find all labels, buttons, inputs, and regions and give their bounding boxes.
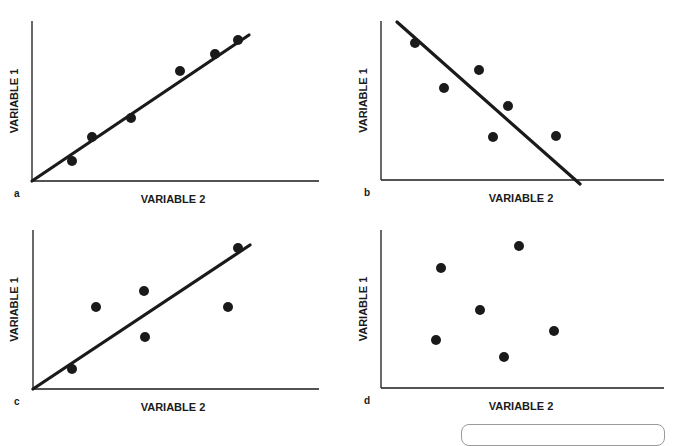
data-point [210,49,220,59]
trend-line [33,245,250,389]
data-point [436,263,446,273]
data-point [233,243,243,253]
x-axis-label: VARIABLE 2 [489,192,554,204]
data-point [139,286,149,296]
x-axis-label: VARIABLE 2 [141,193,206,205]
trend-line [397,22,580,184]
data-point [126,113,136,123]
x-axis-label: VARIABLE 2 [489,400,554,412]
panel-b: VARIABLE 1VARIABLE 2b [357,21,664,204]
data-point [551,131,561,141]
data-point [67,364,77,374]
data-point [475,305,485,315]
data-point [67,156,77,166]
data-point [91,302,101,312]
data-point [140,332,150,342]
panel-label: d [364,395,370,406]
data-point [223,302,233,312]
panel-a: VARIABLE 1VARIABLE 2a [8,21,319,205]
data-point [439,83,449,93]
y-axis-label: VARIABLE 1 [8,69,20,134]
panel-label: b [364,187,370,198]
panel-label: c [14,396,20,407]
data-point [499,352,509,362]
data-point [175,66,185,76]
data-point [87,132,97,142]
panel-c: VARIABLE 1VARIABLE 2c [8,230,319,413]
y-axis-label: VARIABLE 1 [357,277,369,342]
data-point [549,326,559,336]
x-axis-label: VARIABLE 2 [141,401,206,413]
caption-box [461,424,665,446]
data-point [233,35,243,45]
panel-label: a [14,188,20,199]
data-point [431,335,441,345]
data-point [474,65,484,75]
y-axis-label: VARIABLE 1 [8,277,20,342]
panel-d: VARIABLE 1VARIABLE 2d [357,230,664,412]
data-point [514,241,524,251]
y-axis-label: VARIABLE 1 [357,68,369,133]
data-point [488,132,498,142]
data-point [410,38,420,48]
data-point [503,101,513,111]
